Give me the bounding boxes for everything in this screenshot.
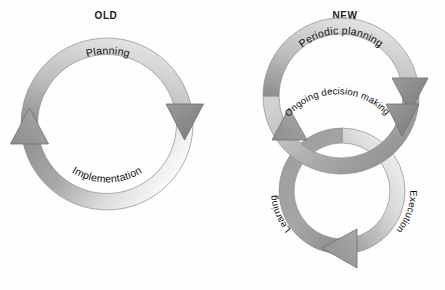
cycle-diagrams-svg: Planning Implementation	[0, 0, 445, 290]
old-arrow-up-icon	[11, 108, 49, 144]
new-label-ongoing-decision-making: Ongoing decision making	[282, 85, 392, 118]
new-cycle-group: Periodic planning Ongoing decision makin…	[263, 18, 428, 268]
new-arrow-left-lower-icon	[322, 229, 357, 268]
old-cycle-group: Planning Implementation	[11, 38, 204, 210]
old-arrow-down-icon	[166, 104, 204, 140]
old-implementation-band	[21, 124, 193, 210]
old-label-implementation: Implementation	[71, 164, 144, 185]
old-label-planning: Planning	[85, 44, 132, 59]
diagram-canvas: OLD NEW	[0, 0, 445, 290]
